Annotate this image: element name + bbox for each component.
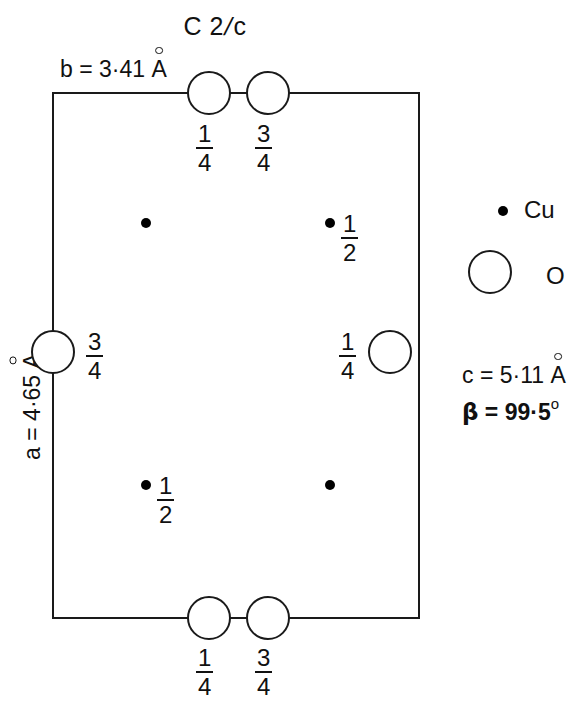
o-top-left-occupancy-label: 14 [196, 121, 213, 176]
o-top-right-occupancy-label-denominator: 4 [255, 150, 272, 175]
legend-o-marker [469, 251, 511, 293]
angstrom-letter-c: A [550, 362, 565, 388]
angstrom-ring-icon [554, 353, 562, 361]
cu-upper-right-occupancy-label: 12 [341, 211, 358, 266]
axis-c-value: c = 5·11 [462, 362, 544, 388]
o-bottom-right-occupancy-label-numerator: 3 [255, 645, 272, 670]
angstrom-symbol-c: A [550, 364, 565, 387]
cu-lower-left-occupancy-label-numerator: 1 [157, 473, 174, 498]
cu-lower-right [325, 480, 335, 490]
cu-upper-right-occupancy-label-numerator: 1 [341, 211, 358, 236]
o-top-right [247, 72, 289, 114]
beta-value: = 99·5 [478, 399, 550, 425]
o-bottom-right-occupancy-label-denominator: 4 [255, 674, 272, 699]
o-right-mid-occupancy-label-numerator: 1 [339, 329, 356, 354]
o-right-mid-occupancy-label: 14 [339, 329, 356, 384]
o-left-mid-occupancy-label-numerator: 3 [86, 329, 103, 354]
o-bottom-left-occupancy-label-numerator: 1 [196, 645, 213, 670]
cu-lower-left [141, 480, 151, 490]
o-bottom-right [247, 597, 289, 639]
legend-label-cu: Cu [524, 198, 555, 222]
o-right-mid [369, 331, 411, 373]
unit-cell-rectangle [53, 93, 419, 618]
o-top-left [188, 72, 230, 114]
degree-symbol: o [551, 395, 559, 412]
cu-lower-left-occupancy-label: 12 [157, 473, 174, 528]
cu-upper-left [141, 218, 151, 228]
cu-upper-right-occupancy-label-denominator: 2 [341, 240, 358, 265]
o-left-mid [32, 331, 74, 373]
beta-symbol: β [462, 399, 478, 425]
legend-cu-marker [498, 206, 508, 216]
o-left-mid-occupancy-label: 34 [86, 329, 103, 384]
o-top-right-occupancy-label: 34 [255, 121, 272, 176]
cu-lower-left-occupancy-label-denominator: 2 [157, 502, 174, 527]
o-bottom-left-occupancy-label: 14 [196, 645, 213, 700]
o-right-mid-occupancy-label-denominator: 4 [339, 358, 356, 383]
o-top-right-occupancy-label-numerator: 3 [255, 121, 272, 146]
o-bottom-left-occupancy-label-denominator: 4 [196, 674, 213, 699]
o-bottom-left [188, 597, 230, 639]
o-top-left-occupancy-label-numerator: 1 [196, 121, 213, 146]
o-left-mid-occupancy-label-denominator: 4 [86, 358, 103, 383]
axis-label-c: c = 5·11 A [462, 364, 566, 387]
crystal-structure-diagram: C 2/c b = 3·41 A a = 4·65 A Cu O c = 5·1… [0, 0, 584, 702]
o-bottom-right-occupancy-label: 34 [255, 645, 272, 700]
o-top-left-occupancy-label-denominator: 4 [196, 150, 213, 175]
axis-label-beta: β = 99·5o [462, 396, 559, 424]
cu-upper-right [325, 218, 335, 228]
legend-label-o: O [546, 264, 565, 288]
